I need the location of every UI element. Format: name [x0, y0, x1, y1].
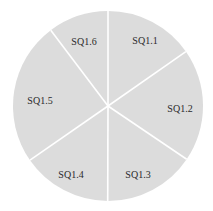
slice-label-sq1-2: SQ1.2 — [167, 103, 192, 114]
slice-label-sq1-3: SQ1.3 — [125, 169, 150, 180]
slice-label-sq1-5: SQ1.5 — [27, 95, 52, 106]
pie-chart: SQ1.1 SQ1.2 SQ1.3 SQ1.4 SQ1.5 SQ1.6 — [0, 0, 213, 211]
slice-label-sq1-1: SQ1.1 — [132, 35, 157, 46]
slice-label-sq1-4: SQ1.4 — [58, 169, 83, 180]
slice-label-sq1-6: SQ1.6 — [71, 36, 96, 47]
